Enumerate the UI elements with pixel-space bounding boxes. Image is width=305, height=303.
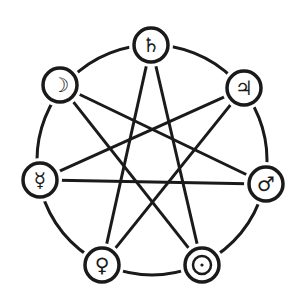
saturn-icon: ♄: [134, 28, 168, 62]
mars-icon: ♂: [249, 167, 283, 201]
star-edge-jupiter-mercury: [57, 96, 226, 172]
venus-icon: ♀: [85, 248, 119, 282]
jupiter-icon: ♃: [227, 71, 261, 105]
star-edge-mars-mercury: [59, 180, 247, 183]
star-edge-mars-moon: [77, 93, 249, 176]
moon-icon: ☽: [43, 68, 77, 102]
heptagram-diagram: ♄♃♂♀☿☽: [0, 0, 305, 303]
mercury-icon: ☿: [23, 163, 57, 197]
